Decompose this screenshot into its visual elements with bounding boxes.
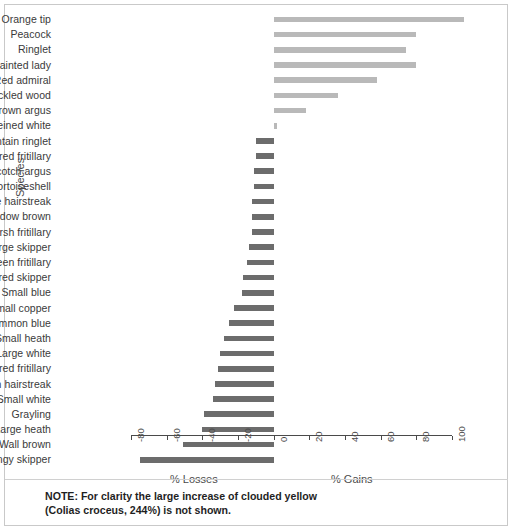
x-tick-label: 80 (420, 428, 431, 442)
category-label: Dark green fritillary (0, 255, 51, 270)
bar-row: Mountain ringlet (0, 134, 513, 149)
bar (252, 214, 273, 220)
bar (234, 305, 273, 311)
bar-row: Large skipper (0, 240, 513, 255)
x-tick (381, 436, 382, 440)
category-label: Chequered skipper (0, 270, 51, 285)
bar-row: Red admiral (0, 73, 513, 88)
bar-row: Small white (0, 392, 513, 407)
x-tick (345, 436, 346, 440)
bar (204, 411, 274, 417)
bar-row: Pearl-bordered fritillary (0, 361, 513, 376)
category-label: Marsh fritillary (0, 225, 51, 240)
bar (229, 320, 274, 326)
bar-row: Purple hairstreak (0, 194, 513, 209)
category-label: Painted lady (0, 58, 51, 73)
bar-row: Green-veined white (0, 118, 513, 133)
bar-row: Marsh fritillary (0, 225, 513, 240)
bar-row: Common blue (0, 316, 513, 331)
category-label: Wall brown (0, 437, 51, 452)
category-label: Mountain ringlet (0, 134, 51, 149)
bar (256, 153, 274, 159)
x-tick-label: 0 (278, 434, 289, 442)
x-tick-label: -60 (171, 425, 182, 442)
x-tick-label: 20 (313, 428, 324, 442)
bar-row: Northern brown argus (0, 103, 513, 118)
category-label: Large heath (0, 422, 51, 437)
x-tick-label: 40 (349, 428, 360, 442)
x-tick-label: -20 (242, 425, 253, 442)
x-tick (452, 436, 453, 440)
bar-row: Chequered skipper (0, 270, 513, 285)
bar (140, 457, 274, 463)
bar (247, 260, 274, 266)
category-label: Small heath (0, 331, 51, 346)
bar-row: Small tortoiseshell (0, 179, 513, 194)
bar (254, 184, 274, 190)
bar (183, 442, 274, 448)
bar (274, 93, 338, 99)
x-tick (202, 436, 203, 440)
x-tick-label: -40 (206, 425, 217, 442)
x-tick (274, 436, 275, 440)
category-label: Green-veined white (0, 118, 51, 133)
bar (274, 108, 306, 114)
x-tick (416, 436, 417, 440)
category-label: Common blue (0, 316, 51, 331)
bar (254, 168, 274, 174)
category-label: Orange tip (1, 12, 51, 27)
category-label: Pearl-bordered fritillary (0, 361, 51, 376)
bar-row: Dingy skipper (0, 452, 513, 467)
chart-note: NOTE: For clarity the large increase of … (45, 489, 475, 518)
x-tick (238, 436, 239, 440)
bar (220, 351, 274, 357)
bar (252, 199, 273, 205)
x-tick-label: 60 (385, 428, 396, 442)
bar (274, 62, 417, 68)
bar-row: Ringlet (0, 42, 513, 57)
bar-row: Scotch argus (0, 164, 513, 179)
category-label: Meadow brown (0, 209, 51, 224)
bar (274, 17, 465, 23)
bar-row: Wall brown (0, 437, 513, 452)
category-label: Peacock (10, 27, 51, 42)
bar-row: Meadow brown (0, 209, 513, 224)
bar-row: Green hairstreak (0, 377, 513, 392)
x-tick-label: -80 (135, 425, 146, 442)
bar-row: Grayling (0, 407, 513, 422)
bar-row: Painted lady (0, 58, 513, 73)
bar (256, 138, 274, 144)
x-tick-label: 100 (456, 423, 467, 442)
bar (252, 229, 273, 235)
bar-row: Small blue (0, 285, 513, 300)
y-axis-label: Species (14, 158, 26, 197)
bar-row: Small heath (0, 331, 513, 346)
bar (274, 32, 417, 38)
x-tick (167, 436, 168, 440)
category-label: Green hairstreak (0, 377, 51, 392)
x-tick (309, 436, 310, 440)
category-label: Small blue (1, 285, 51, 300)
chart-figure: Orange tipPeacockRingletPainted ladyRed … (0, 0, 513, 531)
bar (213, 396, 274, 402)
bar-row: Small copper (0, 301, 513, 316)
category-label: Dingy skipper (0, 452, 51, 467)
bar-row: Dark green fritillary (0, 255, 513, 270)
bar (274, 47, 406, 53)
category-label: Small white (0, 392, 51, 407)
note-line-2: (Colias croceus, 244%) is not shown. (45, 503, 475, 517)
note-line-1: NOTE: For clarity the large increase of … (45, 489, 475, 503)
bar (218, 366, 273, 372)
category-label: Ringlet (18, 42, 51, 57)
category-label: Large white (0, 346, 51, 361)
bar (243, 275, 273, 281)
plot-area: Orange tipPeacockRingletPainted ladyRed … (0, 0, 513, 531)
category-label: Grayling (12, 407, 52, 422)
bar-row: Large white (0, 346, 513, 361)
category-label: Northern brown argus (0, 103, 51, 118)
bar (274, 123, 278, 129)
bar-row: Orange tip (0, 12, 513, 27)
bar-row: Small pearl-bordered fritillary (0, 149, 513, 164)
bar-rows: Orange tipPeacockRingletPainted ladyRed … (0, 12, 513, 468)
bar-row: Peacock (0, 27, 513, 42)
